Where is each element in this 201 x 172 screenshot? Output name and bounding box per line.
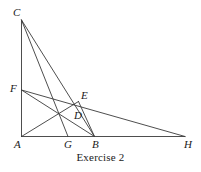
vertex-label-G: G bbox=[64, 139, 72, 150]
segment-A-E bbox=[22, 102, 79, 137]
vertex-label-C: C bbox=[13, 7, 20, 18]
vertex-label-E: E bbox=[81, 90, 88, 101]
segments-group bbox=[22, 20, 186, 137]
vertex-label-H: H bbox=[184, 139, 192, 150]
vertex-label-B: B bbox=[92, 139, 99, 150]
figure-caption: Exercise 2 bbox=[0, 151, 201, 163]
segment-C-G bbox=[22, 20, 69, 137]
geometry-diagram bbox=[0, 0, 201, 172]
vertex-label-F: F bbox=[10, 83, 17, 94]
geometry-figure: C F A G B H E D Exercise 2 bbox=[0, 0, 201, 172]
segment-C-B bbox=[22, 20, 95, 137]
vertex-label-A: A bbox=[14, 139, 21, 150]
segment-F-H bbox=[22, 90, 186, 137]
vertex-label-D: D bbox=[74, 110, 82, 121]
